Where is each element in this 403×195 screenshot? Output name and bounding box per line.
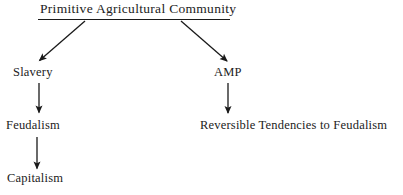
node-reversible-tendencies-to-feudalism: Reversible Tendencies to Feudalism <box>200 118 387 133</box>
diagram-canvas: Primitive Agricultural Community Slavery… <box>0 0 403 195</box>
node-slavery: Slavery <box>13 65 53 80</box>
node-amp: AMP <box>214 65 242 80</box>
edge-primitive-to-amp <box>181 21 227 61</box>
node-feudalism: Feudalism <box>6 118 60 133</box>
edge-primitive-to-slavery <box>40 21 86 61</box>
diagram-edges <box>0 0 403 195</box>
node-capitalism: Capitalism <box>7 171 63 186</box>
